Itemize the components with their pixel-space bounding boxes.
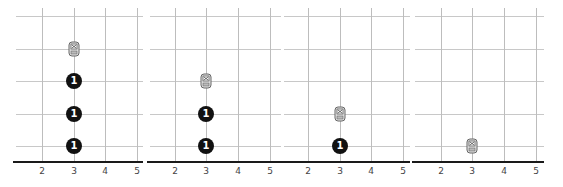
grid-line-vertical — [105, 8, 106, 162]
x-axis — [412, 161, 544, 163]
grid-line-horizontal — [415, 81, 544, 82]
x-tick-label: 3 — [334, 166, 346, 176]
grid-line-vertical — [175, 8, 176, 162]
x-tick-label: 3 — [68, 166, 80, 176]
grid-line-vertical — [42, 8, 43, 162]
grid-line-horizontal — [16, 16, 143, 17]
grid-line-vertical — [137, 8, 138, 162]
x-tick-label: 2 — [435, 166, 447, 176]
grid-line-horizontal — [415, 49, 544, 50]
grid-line-horizontal — [284, 16, 410, 17]
x-tick-label: 4 — [365, 166, 377, 176]
grid-line-vertical — [270, 8, 271, 162]
x-tick-label: 2 — [169, 166, 181, 176]
coin-token: 1 — [66, 73, 82, 89]
coin-token: 1 — [198, 138, 214, 154]
x-tick-label: 4 — [99, 166, 111, 176]
grid-line-vertical — [371, 8, 372, 162]
grid-line-vertical — [403, 8, 404, 162]
x-tick-label: 2 — [302, 166, 314, 176]
x-tick-label: 5 — [131, 166, 143, 176]
grid-line-horizontal — [415, 16, 544, 17]
grid-line-horizontal — [150, 16, 281, 17]
x-axis — [13, 161, 143, 163]
x-tick-label: 5 — [264, 166, 276, 176]
grid-line-horizontal — [284, 81, 410, 82]
robot-icon — [200, 73, 212, 89]
coin-token: 1 — [66, 106, 82, 122]
x-tick-label: 4 — [498, 166, 510, 176]
x-tick-label: 3 — [466, 166, 478, 176]
grid-line-horizontal — [150, 146, 281, 147]
grid-line-horizontal — [415, 146, 544, 147]
grid-line-horizontal — [284, 114, 410, 115]
x-tick-label: 2 — [36, 166, 48, 176]
x-axis — [281, 161, 410, 163]
robot-icon — [334, 106, 346, 122]
coin-token: 1 — [66, 138, 82, 154]
coin-token: 1 — [198, 106, 214, 122]
x-axis — [147, 161, 281, 163]
coin-token: 1 — [332, 138, 348, 154]
x-tick-label: 4 — [232, 166, 244, 176]
grid-line-vertical — [441, 8, 442, 162]
grid-line-horizontal — [415, 114, 544, 115]
grid-line-horizontal — [150, 81, 281, 82]
robot-icon — [68, 41, 80, 57]
grid-line-vertical — [504, 8, 505, 162]
grid-line-vertical — [308, 8, 309, 162]
grid-line-horizontal — [150, 114, 281, 115]
x-tick-label: 5 — [530, 166, 542, 176]
grid-line-horizontal — [150, 49, 281, 50]
robot-icon — [466, 138, 478, 154]
x-tick-label: 3 — [200, 166, 212, 176]
x-tick-label: 5 — [397, 166, 409, 176]
grid-line-horizontal — [284, 49, 410, 50]
grid-line-vertical — [536, 8, 537, 162]
grid-line-vertical — [238, 8, 239, 162]
